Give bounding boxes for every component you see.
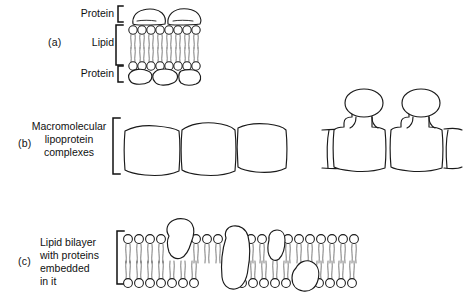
panel-c-label-line-1: Lipid bilayer (40, 237, 120, 249)
protein-a-top-1-inner (137, 20, 156, 21)
protein-blob-a-bottom-2 (153, 69, 178, 85)
panel-a-brackets (116, 6, 123, 82)
lipoprotein-stalk-1-right (372, 117, 378, 128)
panel-c-letter: (c) (18, 256, 31, 267)
protein-a-top-2-inner (173, 20, 193, 21)
bracket-protein-bottom (118, 66, 123, 82)
lipoprotein-stalk-2-right (429, 117, 435, 128)
lipoprotein-subunit-partial-right-edge (446, 130, 448, 168)
protein-c-transmembrane-2 (222, 226, 250, 289)
protein-c-protruding-1 (167, 219, 194, 259)
protein-blob-a-top-2 (168, 9, 201, 25)
panel-b-brackets (113, 118, 120, 174)
lipoprotein-subunit-3 (237, 124, 287, 173)
panel-c-upper-heads (124, 235, 359, 244)
panel-b-label-line-1: Macromolecular (28, 121, 110, 133)
lipoprotein-head-2 (402, 89, 440, 117)
panel-c-upper-tails (126, 244, 357, 263)
panel-a-upper-tails (131, 34, 199, 48)
panel-b-right-group (322, 89, 462, 171)
membrane-models-figure: (a) Protein Lipid Protein (b) Macromolec… (0, 0, 476, 301)
panel-b-label-line-3: complexes (28, 147, 110, 159)
panel-a-lipid-bilayer (129, 26, 200, 70)
lipoprotein-partial-left-top-edge (322, 129, 342, 130)
panel-c-label-line-4: in it (40, 276, 120, 288)
bracket-lipoprotein-complexes (113, 118, 120, 174)
panel-a-top-proteins (133, 9, 201, 25)
panel-c-lower-tails (126, 261, 355, 280)
lipoprotein-partial-right-top-edge (444, 128, 462, 130)
panel-a-bottom-proteins (129, 69, 201, 85)
panel-c-lower-heads (124, 279, 357, 288)
lipoprotein-subunit-2 (181, 123, 236, 176)
bracket-lipid (116, 25, 123, 65)
panel-a-label-protein-bottom: Protein (48, 68, 114, 80)
panel-a-label-lipid: Lipid (48, 37, 114, 49)
lipoprotein-stalked-subunit-2 (390, 111, 443, 172)
panel-b-label-line-2: lipoprotein (28, 134, 110, 146)
protein-c-integral-3 (268, 230, 285, 260)
panel-a-lower-tails (131, 48, 199, 62)
lipoprotein-subunit-partial-left-edge (327, 130, 329, 168)
lipoprotein-subunit-1 (124, 126, 180, 176)
protein-blob-a-top-1 (133, 9, 166, 25)
panel-a-lower-heads (129, 62, 200, 70)
panel-c-label-line-3: embedded (40, 263, 120, 275)
panel-b-left-group (124, 123, 287, 176)
lipoprotein-stalked-subunit-1 (333, 111, 386, 172)
panel-a-upper-heads (129, 26, 200, 34)
lipoprotein-stalk-2-left (407, 117, 413, 128)
lipoprotein-stalk-1-left (350, 117, 356, 128)
bracket-protein-top (118, 6, 123, 22)
lipoprotein-head-1 (345, 89, 383, 117)
panel-c-label-line-2: with proteins (40, 250, 120, 262)
protein-blob-a-bottom-1 (129, 69, 152, 84)
lipoprotein-partial-left-bottom-edge (322, 168, 344, 169)
panel-a-label-protein-top: Protein (48, 8, 114, 20)
protein-c-peripheral-4 (292, 261, 319, 291)
panel-c-lipid-bilayer (124, 219, 359, 292)
lipoprotein-partial-right-bottom-edge (444, 167, 462, 169)
protein-blob-a-bottom-3 (179, 70, 201, 85)
